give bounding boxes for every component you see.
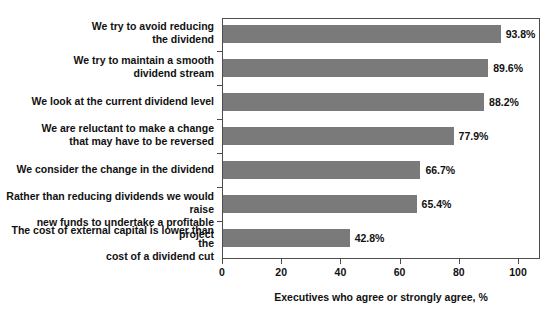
bar xyxy=(223,25,501,43)
category-label: The cost of external capital is lower th… xyxy=(0,224,214,262)
category-label-line: dividend stream xyxy=(0,67,214,80)
bar xyxy=(223,127,454,145)
x-axis-tick-label: 100 xyxy=(498,266,538,278)
category-label: We consider the change in the dividend xyxy=(0,163,214,176)
x-axis-tick xyxy=(459,259,460,264)
x-axis-title: Executives who agree or strongly agree, … xyxy=(222,291,540,303)
category-label: We are reluctant to make a changethat ma… xyxy=(0,122,214,147)
category-label-line: that may have to be reversed xyxy=(0,135,214,148)
bar xyxy=(223,59,488,77)
x-axis-tick xyxy=(518,259,519,264)
y-axis-tick xyxy=(217,187,222,188)
category-label-line: Rather than reducing dividends we would … xyxy=(0,190,214,215)
category-label-line: We try to maintain a smooth xyxy=(0,54,214,67)
category-label: We try to avoid reducingthe dividend xyxy=(0,20,214,45)
category-label-line: We are reluctant to make a change xyxy=(0,122,214,135)
category-label-line: We look at the current dividend level xyxy=(0,95,214,108)
x-axis-tick xyxy=(281,259,282,264)
bar-value-label: 65.4% xyxy=(422,195,452,213)
x-axis-tick-label: 40 xyxy=(320,266,360,278)
y-axis-tick xyxy=(217,119,222,120)
category-label-line: We consider the change in the dividend xyxy=(0,163,214,176)
bar-value-label: 42.8% xyxy=(355,229,385,247)
x-axis-tick-label: 20 xyxy=(261,266,301,278)
bar-value-label: 77.9% xyxy=(459,127,489,145)
x-axis-tick-label: 0 xyxy=(202,266,242,278)
category-label: We try to maintain a smoothdividend stre… xyxy=(0,54,214,79)
category-label-line: The cost of external capital is lower th… xyxy=(0,224,214,249)
bar xyxy=(223,195,417,213)
bar-value-label: 89.6% xyxy=(493,59,523,77)
x-axis-tick xyxy=(222,259,223,264)
category-label-line: the dividend xyxy=(0,33,214,46)
bar xyxy=(223,93,484,111)
bar-value-label: 88.2% xyxy=(489,93,519,111)
bar-value-label: 93.8% xyxy=(506,25,536,43)
category-label-line: cost of a dividend cut xyxy=(0,250,214,263)
y-axis-tick xyxy=(217,153,222,154)
bar xyxy=(223,161,420,179)
x-axis-tick-label: 60 xyxy=(380,266,420,278)
category-label-line: We try to avoid reducing xyxy=(0,20,214,33)
y-axis-tick xyxy=(217,85,222,86)
x-axis-tick-label: 80 xyxy=(439,266,479,278)
y-axis-tick xyxy=(217,221,222,222)
x-axis-tick xyxy=(400,259,401,264)
y-axis-tick xyxy=(217,51,222,52)
bar-chart: We try to avoid reducingthe dividend93.8… xyxy=(0,0,558,318)
bar xyxy=(223,229,350,247)
category-label: We look at the current dividend level xyxy=(0,95,214,108)
bar-value-label: 66.7% xyxy=(425,161,455,179)
x-axis-tick xyxy=(340,259,341,264)
